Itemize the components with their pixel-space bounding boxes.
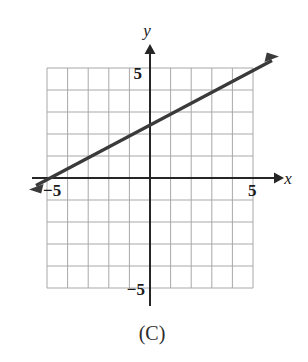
y-axis-label: y [141, 21, 151, 40]
figure-caption: (C) [139, 322, 166, 345]
coordinate-plane-svg: y x 5 −5 −5 5 (C) [0, 0, 308, 362]
y-axis-tick-label-negative: −5 [127, 280, 145, 299]
x-axis-label: x [283, 169, 292, 188]
x-axis-tick-label-negative: −5 [43, 181, 61, 200]
y-axis-tick-label-positive: 5 [134, 64, 143, 83]
graph-figure: y x 5 −5 −5 5 (C) [0, 0, 308, 362]
x-axis-tick-label-positive: 5 [248, 181, 257, 200]
